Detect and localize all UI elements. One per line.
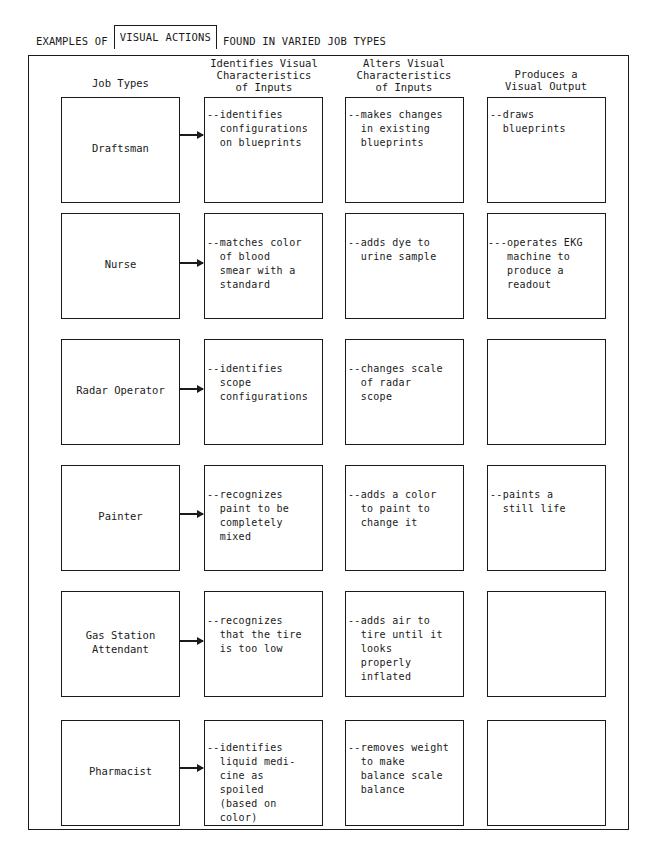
produces-box: --draws blueprints	[487, 97, 606, 203]
arrow-icon	[180, 388, 203, 390]
job-box: Pharmacist	[61, 720, 180, 826]
job-label: Painter	[62, 466, 179, 570]
identifies-text: --identifies scope configurations	[207, 362, 321, 404]
job-label: Gas Station Attendant	[62, 592, 179, 696]
produces-text: --draws blueprints	[490, 108, 604, 136]
produces-text: ---operates EKG machine to produce a rea…	[488, 236, 604, 292]
title-suffix: FOUND IN VARIED JOB TYPES	[223, 35, 386, 47]
diagram-title: EXAMPLES OF VISUAL ACTIONS FOUND IN VARI…	[36, 33, 386, 49]
alters-text: --adds dye to urine sample	[348, 236, 462, 264]
identifies-box: --recognizes paint to be completely mixe…	[204, 465, 323, 571]
alters-box: --adds dye to urine sample	[345, 213, 464, 319]
job-box: Gas Station Attendant	[61, 591, 180, 697]
produces-box	[487, 339, 606, 445]
column-header-job-types: Job Types	[61, 77, 180, 89]
job-box: Draftsman	[61, 97, 180, 203]
job-label: Nurse	[62, 214, 179, 318]
column-header-alters: Alters Visual Characteristics of Inputs	[331, 57, 477, 93]
job-label: Radar Operator	[62, 340, 179, 444]
identifies-box: --identifies scope configurations	[204, 339, 323, 445]
arrow-icon	[180, 513, 203, 515]
produces-text: --paints a still life	[490, 488, 604, 516]
produces-box	[487, 591, 606, 697]
arrow-icon	[180, 262, 203, 264]
alters-text: --makes changes in existing blueprints	[348, 108, 462, 150]
produces-box	[487, 720, 606, 826]
arrow-icon	[180, 640, 203, 642]
identifies-box: --recognizes that the tire is too low	[204, 591, 323, 697]
alters-text: --adds air to tire until it looks proper…	[348, 614, 462, 684]
alters-box: --changes scale of radar scope	[345, 339, 464, 445]
identifies-text: --recognizes paint to be completely mixe…	[207, 488, 321, 544]
produces-box: --paints a still life	[487, 465, 606, 571]
identifies-box: --identifies liquid medi- cine as spoile…	[204, 720, 323, 826]
identifies-box: --identifies configurations on blueprint…	[204, 97, 323, 203]
title-boxed-term: VISUAL ACTIONS	[114, 25, 217, 49]
alters-box: --makes changes in existing blueprints	[345, 97, 464, 203]
produces-box: ---operates EKG machine to produce a rea…	[487, 213, 606, 319]
alters-box: --adds a color to paint to change it	[345, 465, 464, 571]
job-box: Painter	[61, 465, 180, 571]
identifies-text: --recognizes that the tire is too low	[207, 614, 321, 656]
identifies-text: --identifies liquid medi- cine as spoile…	[207, 741, 321, 825]
job-label: Draftsman	[62, 98, 179, 202]
arrow-icon	[180, 134, 203, 136]
arrow-icon	[180, 767, 203, 769]
job-label: Pharmacist	[62, 721, 179, 825]
identifies-text: --identifies configurations on blueprint…	[207, 108, 321, 150]
column-header-produces: Produces a Visual Output	[475, 68, 617, 92]
alters-box: --adds air to tire until it looks proper…	[345, 591, 464, 697]
job-box: Nurse	[61, 213, 180, 319]
alters-text: --removes weight to make balance scale b…	[348, 741, 462, 797]
alters-box: --removes weight to make balance scale b…	[345, 720, 464, 826]
column-header-identifies: Identifies Visual Characteristics of Inp…	[190, 57, 338, 93]
alters-text: --changes scale of radar scope	[348, 362, 462, 404]
identifies-box: --matches color of blood smear with a st…	[204, 213, 323, 319]
alters-text: --adds a color to paint to change it	[348, 488, 462, 530]
title-prefix: EXAMPLES OF	[36, 35, 108, 47]
job-box: Radar Operator	[61, 339, 180, 445]
identifies-text: --matches color of blood smear with a st…	[207, 236, 321, 292]
